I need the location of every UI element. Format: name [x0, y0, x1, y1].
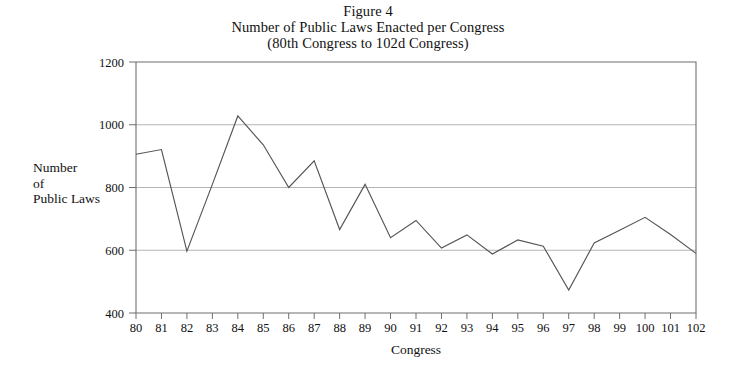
plot-area: 40060080010001200 8081828384858687888990… [0, 0, 736, 375]
x-tick-label: 98 [588, 321, 601, 335]
x-tick-label: 100 [636, 321, 655, 335]
x-axis-label: Congress [136, 340, 696, 358]
x-tick-label: 91 [410, 321, 423, 335]
x-tick-label: 96 [537, 321, 550, 335]
x-tick-label: 86 [282, 321, 295, 335]
x-tick-label: 83 [206, 321, 219, 335]
x-tick-label: 97 [562, 321, 575, 335]
x-tick-label: 102 [687, 321, 706, 335]
x-tick-label: 92 [435, 321, 448, 335]
x-axis-label-text: Congress [391, 342, 441, 357]
x-tick-label: 95 [512, 321, 525, 335]
x-tick-label: 89 [359, 321, 372, 335]
y-tick-label: 1200 [99, 56, 124, 70]
x-tick-label: 82 [181, 321, 194, 335]
x-tick-label: 99 [613, 321, 626, 335]
x-tick-label: 85 [257, 321, 270, 335]
x-tick-label: 84 [232, 321, 245, 335]
line-chart-svg: 40060080010001200 8081828384858687888990… [0, 0, 736, 375]
y-tick-label: 1000 [99, 118, 124, 132]
data-series-line [136, 116, 696, 290]
x-tick-label: 101 [661, 321, 680, 335]
x-tick-label: 93 [461, 321, 474, 335]
y-tick-label: 400 [105, 307, 124, 321]
y-tick-label: 800 [105, 181, 124, 195]
x-tick-label: 81 [155, 321, 168, 335]
x-tick-mark-group [136, 313, 696, 319]
y-tick-label-group: 40060080010001200 [99, 56, 124, 321]
x-tick-label: 94 [486, 321, 499, 335]
x-tick-label: 80 [130, 321, 143, 335]
x-tick-label: 90 [384, 321, 397, 335]
x-tick-label-group: 8081828384858687888990919293949596979899… [130, 321, 706, 335]
figure-container: Figure 4 Number of Public Laws Enacted p… [0, 0, 736, 375]
x-tick-label: 87 [308, 321, 321, 335]
x-tick-label: 88 [333, 321, 346, 335]
y-tick-label: 600 [105, 244, 124, 258]
y-tick-mark-group [129, 62, 136, 313]
gridline-group [136, 125, 696, 251]
